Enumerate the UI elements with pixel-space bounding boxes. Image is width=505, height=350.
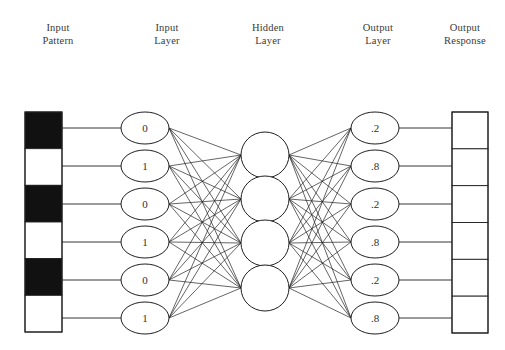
output-layer-node-label: .8: [371, 236, 380, 248]
edge-hidden-output: [289, 166, 351, 199]
output-layer-node-label: .2: [371, 122, 379, 134]
output-response-cell: [452, 259, 488, 296]
input-layer-node-label: 0: [142, 198, 148, 210]
output-response-cell: [452, 186, 488, 223]
edge-input-hidden: [169, 128, 241, 199]
edge-hidden-output: [289, 243, 351, 318]
input-layer-node-label: 1: [142, 160, 148, 172]
output-layer-node-label: .2: [371, 198, 379, 210]
hidden-layer-node[interactable]: [241, 265, 289, 311]
edge-input-hidden: [169, 128, 241, 288]
edge-hidden-output: [289, 199, 351, 204]
input-pattern-cell: [25, 222, 62, 259]
input-layer-node-label: 1: [142, 236, 148, 248]
edge-input-hidden: [169, 199, 241, 242]
output-layer-node-label: .8: [371, 312, 380, 324]
input-pattern-cell: [25, 112, 62, 149]
edge-hidden-output: [289, 199, 351, 280]
edge-hidden-output: [289, 128, 351, 243]
hidden-layer-node[interactable]: [241, 176, 289, 222]
edge-input-hidden: [169, 155, 241, 166]
edge-input-hidden: [169, 166, 241, 288]
edge-input-hidden: [169, 166, 241, 199]
edge-hidden-output: [289, 128, 351, 199]
input-layer-node-label: 1: [142, 312, 148, 324]
output-layer-node-label: .2: [371, 274, 379, 286]
input-pattern-cell: [25, 149, 62, 186]
edge-hidden-output: [289, 288, 351, 318]
input-layer-node-label: 0: [142, 274, 148, 286]
edge-hidden-output: [289, 155, 351, 242]
edge-hidden-output: [289, 128, 351, 288]
edge-input-hidden: [169, 199, 241, 204]
hidden-layer-node[interactable]: [241, 132, 289, 178]
edge-hidden-output: [289, 155, 351, 166]
output-response-cell: [452, 296, 488, 333]
edge-input-hidden: [169, 242, 241, 243]
edge-hidden-output: [289, 166, 351, 243]
edge-input-hidden: [169, 155, 241, 242]
output-layer-node-label: .8: [371, 160, 380, 172]
edge-input-hidden: [169, 288, 241, 318]
edge-hidden-output: [289, 128, 351, 155]
input-pattern-cell: [25, 259, 62, 296]
input-pattern-cell: [25, 295, 62, 332]
edge-hidden-output: [289, 166, 351, 288]
output-response-cell: [452, 112, 488, 149]
edge-hidden-output: [289, 242, 351, 243]
edge-input-hidden: [169, 128, 241, 155]
edge-input-hidden: [169, 166, 241, 243]
nodes-group: 010101.2.8.2.8.2.8: [121, 112, 399, 334]
input-pattern-cell: [25, 185, 62, 222]
edge-input-hidden: [169, 128, 241, 243]
hidden-layer-node[interactable]: [241, 220, 289, 266]
output-response-cell: [452, 149, 488, 186]
edge-input-hidden: [169, 243, 241, 318]
input-layer-node-label: 0: [142, 122, 148, 134]
edge-input-hidden: [169, 199, 241, 280]
network-canvas: 010101.2.8.2.8.2.8: [0, 0, 505, 350]
output-response-cell: [452, 223, 488, 260]
neural-network-figure: Input Pattern Input Layer Hidden Layer O…: [0, 0, 505, 350]
